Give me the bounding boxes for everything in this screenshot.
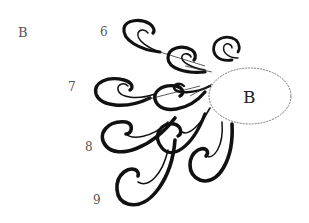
curl-stroke	[214, 37, 240, 60]
curl-stroke	[102, 118, 175, 152]
center-node: B	[209, 68, 291, 124]
curl-diagram: B	[0, 0, 309, 223]
curl-stroke	[168, 47, 212, 72]
center-node-label: B	[243, 87, 256, 107]
curl-stroke	[155, 84, 212, 110]
